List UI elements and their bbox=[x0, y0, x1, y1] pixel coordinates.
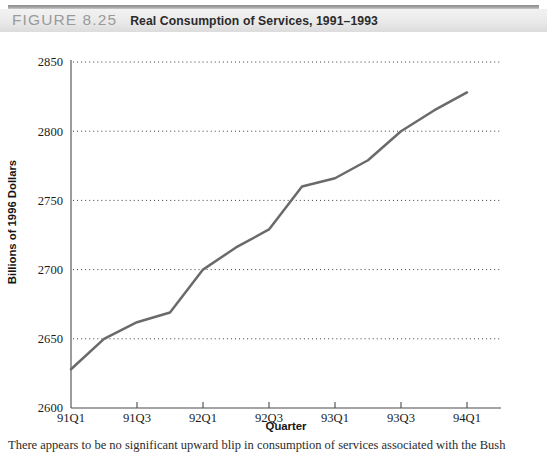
header-text-row: FIGURE 8.25 Real Consumption of Services… bbox=[12, 11, 378, 29]
gridlines-group bbox=[73, 62, 501, 339]
y-axis-tick-label: 2800 bbox=[38, 125, 63, 139]
y-axis-tick-label: 2650 bbox=[38, 332, 63, 346]
y-axis-tick-label: 2700 bbox=[38, 263, 63, 277]
figure-caption: There appears to be no significant upwar… bbox=[8, 438, 542, 453]
x-axis-tick-label: 93Q3 bbox=[387, 411, 415, 425]
y-axis-ticks-group: 260026502700275028002850 bbox=[38, 55, 63, 415]
x-axis-tick-label: 92Q1 bbox=[189, 411, 217, 425]
figure-header: FIGURE 8.25 Real Consumption of Services… bbox=[0, 0, 547, 34]
chart-svg: 260026502700275028002850 91Q191Q392Q192Q… bbox=[0, 34, 547, 432]
y-axis-tick-label: 2850 bbox=[38, 55, 63, 69]
y-axis-title: Billions of 1996 Dollars bbox=[6, 160, 18, 284]
x-axis-tick-label: 94Q1 bbox=[453, 411, 481, 425]
figure-number: FIGURE 8.25 bbox=[12, 11, 117, 29]
line-chart: 260026502700275028002850 91Q191Q392Q192Q… bbox=[0, 34, 547, 432]
y-axis-tick-label: 2750 bbox=[38, 194, 63, 208]
x-axis-tick-label: 91Q3 bbox=[123, 411, 151, 425]
figure-title: Real Consumption of Services, 1991–1993 bbox=[130, 14, 378, 28]
data-series-line bbox=[71, 92, 467, 369]
x-axis-tick-label: 93Q1 bbox=[321, 411, 349, 425]
x-axis-title: Quarter bbox=[266, 420, 307, 432]
x-axis-tick-label: 91Q1 bbox=[57, 411, 85, 425]
